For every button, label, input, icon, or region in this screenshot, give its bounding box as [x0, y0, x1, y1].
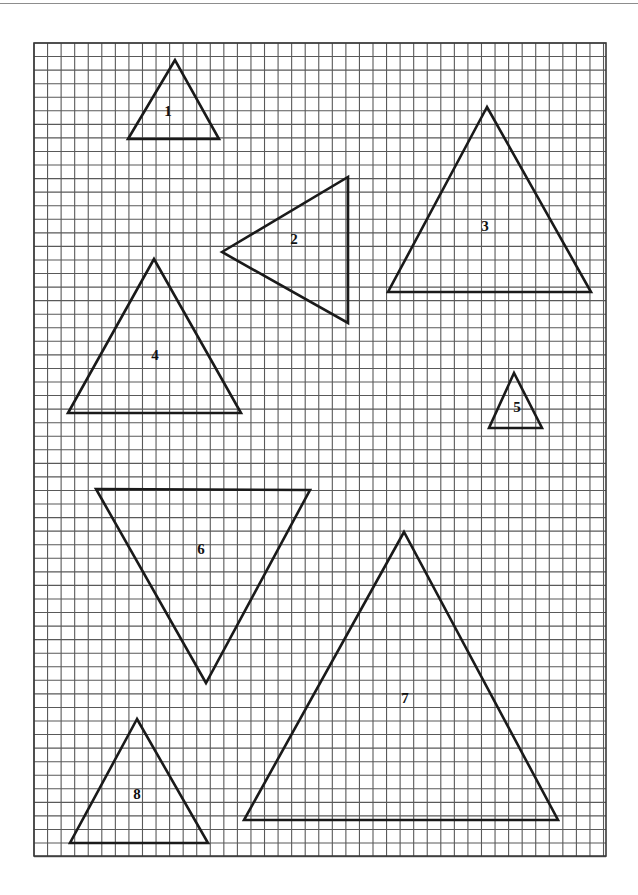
- triangle-label-1: 1: [164, 103, 172, 119]
- triangle-label-8: 8: [133, 786, 141, 802]
- triangle-label-4: 4: [151, 347, 159, 363]
- triangle-label-6: 6: [197, 541, 205, 557]
- worksheet-page: 12345678: [0, 0, 638, 895]
- triangle-label-5: 5: [513, 399, 521, 415]
- triangle-label-2: 2: [290, 231, 298, 247]
- grid-and-triangles-figure: 12345678: [0, 0, 638, 895]
- triangle-label-7: 7: [401, 690, 409, 706]
- triangle-label-3: 3: [481, 218, 489, 234]
